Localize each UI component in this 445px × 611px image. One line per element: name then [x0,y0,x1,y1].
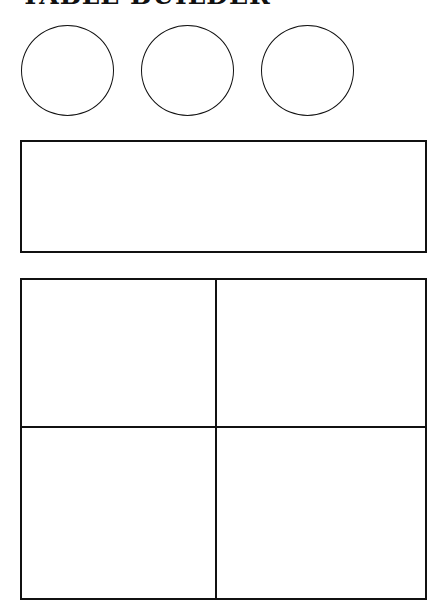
grid-cell-top-right[interactable] [217,280,425,428]
circle-1[interactable] [21,25,114,116]
grid-cell-bottom-left[interactable] [22,428,217,598]
banner-box[interactable] [20,140,427,253]
table-grid [20,278,427,600]
page-title: TABLE BUILDER [21,0,271,8]
circle-3[interactable] [261,25,354,116]
grid-cell-bottom-right[interactable] [217,428,425,598]
grid-cell-top-left[interactable] [22,280,217,428]
circle-2[interactable] [141,25,234,116]
